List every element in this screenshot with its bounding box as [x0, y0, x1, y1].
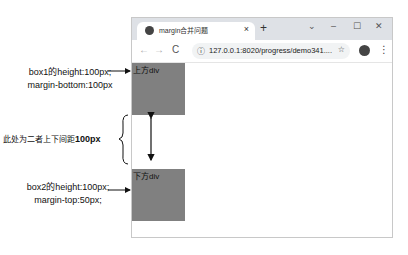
- annotation-arrows: [0, 0, 408, 255]
- curly-brace: [119, 115, 128, 164]
